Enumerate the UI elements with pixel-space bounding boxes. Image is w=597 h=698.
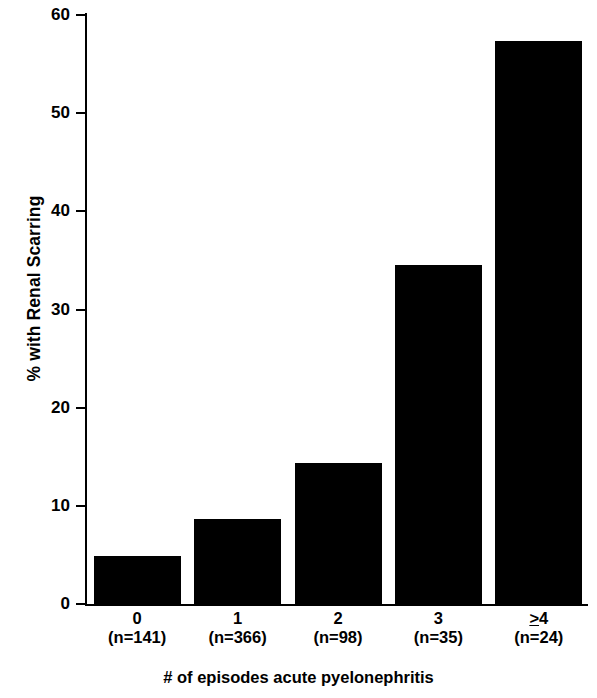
y-axis-tick-label: 20 (24, 399, 70, 416)
y-axis-tick-label: 0 (24, 595, 70, 612)
y-axis-tick-label: 10 (24, 497, 70, 514)
y-axis-tick-label: 40 (24, 202, 70, 219)
y-axis-title: % with Renal Scarring (24, 159, 45, 419)
y-axis-tick-label: 50 (24, 104, 70, 121)
y-axis-tick-mark (76, 407, 85, 409)
bar-chart-figure: % with Renal Scarring 0102030405060 0(n=… (0, 0, 597, 698)
plot-area (87, 15, 589, 605)
y-axis-tick-mark (76, 309, 85, 311)
y-axis-tick-mark (76, 14, 85, 16)
bar (194, 519, 281, 605)
y-axis-tick-label: 60 (24, 6, 70, 23)
y-axis-tick-mark (76, 210, 85, 212)
y-axis-tick-mark (76, 505, 85, 507)
bar (295, 463, 382, 605)
bar (94, 556, 181, 605)
bar (495, 41, 582, 605)
x-axis-category-group: >4(n=24) (479, 609, 597, 648)
bar (395, 265, 482, 605)
x-axis-title: # of episodes acute pyelonephritis (0, 668, 597, 687)
x-axis-category-label: >4 (479, 609, 597, 627)
greater-equal-icon: > (529, 609, 539, 627)
x-axis-group-size-label: (n=24) (479, 627, 597, 648)
y-axis-tick-mark (76, 603, 85, 605)
y-axis-tick-label: 30 (24, 301, 70, 318)
y-axis-tick-mark (76, 112, 85, 114)
